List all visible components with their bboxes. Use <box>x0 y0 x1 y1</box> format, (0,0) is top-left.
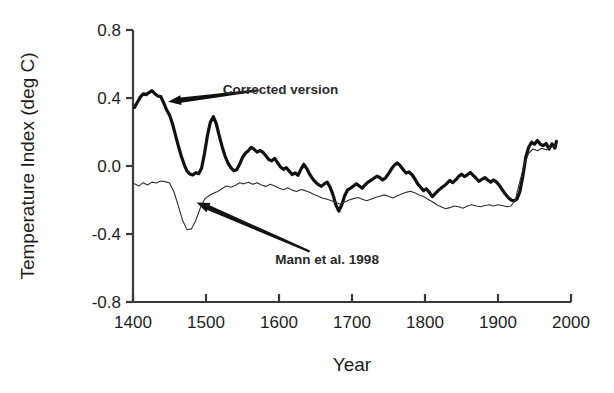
temperature-index-line-chart: -0.8-0.40.00.40.8 1400150016001700180019… <box>0 0 614 393</box>
mann-1998-annotation: Mann et al. 1998 <box>275 252 379 267</box>
y-tick-label: 0.0 <box>97 157 121 176</box>
x-tick-label: 1500 <box>187 313 225 332</box>
y-tick-label: 0.8 <box>97 21 121 40</box>
chart-figure: -0.8-0.40.00.40.8 1400150016001700180019… <box>0 0 614 393</box>
corrected-version-annotation: Corrected version <box>223 82 339 97</box>
y-tick-label: 0.4 <box>97 89 121 108</box>
x-tick-label: 1700 <box>333 313 371 332</box>
x-tick-label: 1400 <box>114 313 152 332</box>
x-axis-title: Year <box>333 354 372 375</box>
x-tick-label: 1800 <box>406 313 444 332</box>
x-tick-label: 2000 <box>552 313 590 332</box>
x-tick-label: 1600 <box>260 313 298 332</box>
y-tick-label: -0.8 <box>92 293 121 312</box>
y-tick-label: -0.4 <box>92 225 121 244</box>
plot-background <box>0 0 614 393</box>
x-tick-label: 1900 <box>479 313 517 332</box>
y-axis-title: Temperature Index (deg C) <box>17 52 38 279</box>
